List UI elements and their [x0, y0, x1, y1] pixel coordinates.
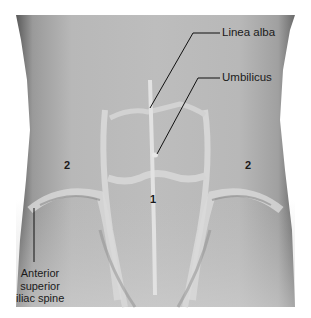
- anatomy-figure: Linea alba Umbilicus 2 2 1 Anterior supe…: [0, 0, 311, 318]
- asis-label-line3: iliac spine: [16, 292, 64, 305]
- oblique-right-number: 2: [245, 159, 251, 171]
- umbilicus-label: Umbilicus: [222, 71, 272, 84]
- asis-label-line1: Anterior: [16, 267, 64, 280]
- oblique-left-number: 2: [64, 159, 70, 171]
- linea-alba-label: Linea alba: [222, 26, 275, 39]
- asis-label-line2: superior: [16, 280, 64, 293]
- asis-label: Anterior superior iliac spine: [16, 267, 64, 305]
- rectus-number: 1: [150, 193, 156, 205]
